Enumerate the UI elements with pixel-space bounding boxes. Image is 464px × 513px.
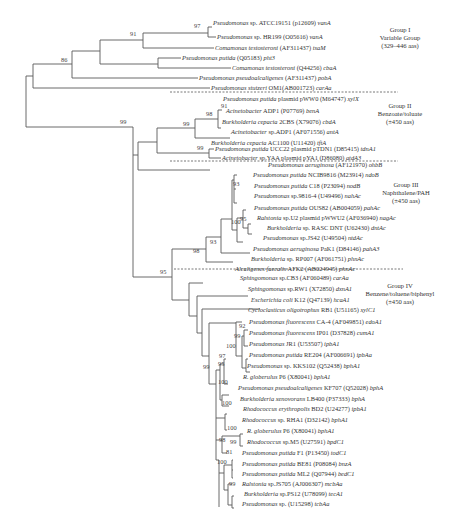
leaf-27: Escherichia coli K12 (Q47139) hcaA1 [250,296,350,304]
bootstrap: 100 [222,399,232,406]
bootstrap: 100 [227,424,237,431]
leaf-40: Rhodococcus sp.M5 (U27591) bpdC1 [246,438,344,446]
leaf-16: Pseudomonas putida C18 (P23094) nodB [253,182,360,190]
leaf-35: Pseudomonas pseudoalcaligenes KF707 (Q52… [237,384,383,392]
leaf-20: Burkholderia sp. RASC DNT (U62430) dntAc [267,224,386,232]
bootstrap: 99 [120,118,126,125]
bootstrap: 95 [160,268,166,275]
bootstrap: 93 [233,180,239,187]
leaf-29: Pseudomonas fluorescens CA-4 (AF049851) … [248,318,382,326]
leaf-38: Rhodococcus sp. RHA1 (D32142) bphA1 [241,416,348,424]
bootstrap: 99 [197,144,203,151]
bootstrap: 93 [210,238,216,245]
bootstrap: 100 [218,378,228,385]
leaf-15: Pseudomonas putida NCIB9816 (M23914) ndo… [252,171,379,179]
phylogenetic-tree-main: Pseudomonas sp. ATCC19151 (p12609) vanA … [0,0,464,513]
leaf-34: R. globerulus P6 (X80041) bphA1 [242,373,331,381]
bootstrap: 98 [206,110,212,117]
bootstrap: 100 [217,458,227,465]
bootstrap: 97 [219,352,226,359]
leaf-42: Pseudomonas putida BE81 (P08084) bnzA [241,460,351,468]
leaf-5: Pseudomonas pseudoalcaligenes (AF311437)… [198,74,331,82]
leaf-17: Pseudomonas sp.9816-4 (U49496) nahAc [253,192,361,200]
bootstrap: 92 [239,322,245,329]
bootstrap: 98 [193,247,199,254]
leaf-46: Pseudomonas sp. (U15298) tcbAa [241,500,329,508]
leaf-3: Pseudomonas putida (Q05183) pht3 [181,54,275,62]
leaf-23: Burkholderia sp. RP007 (AF061751) phnAc [251,255,364,263]
leaf-22: Pseudomonas aeruginosa PaK1 (D84146) pah… [252,245,379,253]
leaf-41: Pseudomonas putida F1 (P13450) todC1 [241,449,346,457]
leaf-39: R. globerulus P6 (X80041) bphA1 [246,427,335,435]
leaf-9: Burkholderia cepacia 2CBS (X79076) cbdA [222,118,336,126]
bootstrap: 100 [226,342,236,349]
bootstrap: 91 [130,30,136,37]
bootstrap: 99 [203,363,209,370]
leaf-37: Rhodococcus erythropolis BD2 (U24277) ip… [242,405,367,413]
leaf-1: Pseudomonas sp. HR199 (O05616) vanA [216,33,323,41]
bootstrap: 99 [230,438,236,445]
bootstrap: 97 [194,22,201,29]
leaf-14: Pseudomonas aeruginosa (AF121970) ohbB [267,161,382,169]
leaf-31: Pseudomonas JR1 (U53507) ipbA1 [248,340,339,348]
leaf-44: Ralstonia sp.JS705 (AJ006307) mcbAa [241,480,342,488]
bootstrap: 81 [226,448,232,455]
leaf-45: Burkholderia sp.PS12 (U78099) tecA1 [244,490,343,498]
leaf-21: Pseudomonas sp.JS42 (U49504) ntdAc [262,234,363,242]
leaf-4: Comamonas testosteroni (Q44256) cbaA [232,64,336,72]
leaf-12: Pseudomonas putida UCC22 plasmid pTDN1 (… [214,145,376,153]
bootstrap: 95 [218,360,224,367]
bootstrap: 91 [221,102,227,109]
leaf-32: Pseudomonas putida RE204 (AF006691) ipbA… [248,351,372,359]
leaf-28: Cycloclasticus oligotrophus RB1 (U51165)… [248,306,375,314]
leaf-30: Pseudomonas fluorescens IP01 (D37828) cu… [248,329,374,337]
bootstrap: 99 [229,480,235,487]
leaf-43: Pseudomonas putida ML2 (Q07944) bedC1 [241,470,355,478]
leaf-7: Pseudomonas putida plasmid pWW0 (M64747)… [222,95,360,103]
bootstrap: 99 [234,332,240,339]
bootstrap: 98 [219,436,225,443]
leaf-18: Pseudomonas putida OUS82 (AB004059) pahA… [253,204,380,212]
bootstrap: 99 [183,120,189,127]
leaf-0: Pseudomonas sp. ATCC19151 (p12609) vanA [212,19,331,27]
leaf-24: Alcaligenes faecalis AFK2 (AB024945) phn… [234,265,356,273]
leaf-2: Comamonas testosteroni (AF311437) tsaM [215,44,326,52]
bootstrap: 86 [61,56,67,63]
leaf-26: Sphingomonas sp.RW1 (X72850) dxnA1 [248,285,352,293]
leaf-19: Ralstonia sp.U2 plasmid pWWU2 (AF036940)… [256,214,396,222]
leaf-25: Sphingomonas sp.CB3 (AF060489) carAa [240,274,349,282]
leaf-36: Burkholderia xenovorans LB400 (P37333) b… [240,395,365,403]
leaf-8: Acinetobacter ADP1 (P07769) benA [225,107,319,115]
bootstrap: 95 [240,215,246,222]
leaf-33: Pseudomonas sp. KKS102 (Q52438) bphA1 [246,362,360,370]
leaf-10: Acinetobacter sp.ADP1 (AF071556) antA [230,128,339,136]
leaf-6: Pseudomonas stutzeri OM1(AB001723) carAa [210,84,332,92]
